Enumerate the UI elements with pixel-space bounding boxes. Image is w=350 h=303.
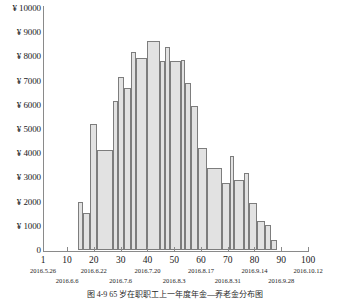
x-axis-tick-mark [308,247,309,252]
x-axis-date-label: 2016.7.20 [134,267,160,274]
x-axis-date-label: 2016.9.14 [241,267,267,274]
x-axis-tick-mark [43,247,44,252]
x-axis-date-label: 2016.5.26 [30,267,56,274]
x-axis-tick-mark [94,247,95,252]
x-axis-tick-mark [201,247,202,252]
x-axis-tick-label: 10 [62,255,72,265]
chart-figure: ¥ 10000¥ 9000¥ 8000¥ 7000¥ 6000¥ 5000¥ 4… [0,0,350,303]
x-axis-tick-label: 1 [41,255,46,265]
x-axis-tick-mark [281,247,282,252]
x-axis-date-label: 2016.7.6 [109,277,132,284]
x-axis-tick-label: 20 [89,255,99,265]
x-axis-tick-label: 40 [143,255,153,265]
x-axis-date-label: 2016.10.12 [293,267,322,274]
x-axis-tick-mark [254,247,255,252]
x-axis-date-label: 2016.8.31 [215,277,241,284]
x-axis-tick-mark [121,247,122,252]
x-axis-labels: 12016.5.26102016.6.6202016.6.22302016.7.… [0,0,350,303]
x-axis-tick-label: 100 [301,255,315,265]
x-axis-tick-label: 30 [116,255,126,265]
x-axis-tick-label: 90 [276,255,286,265]
x-axis-date-label: 2016.8.3 [163,277,186,284]
x-axis-tick-label: 80 [250,255,260,265]
x-axis-tick-label: 50 [169,255,179,265]
x-axis-date-label: 2016.8.17 [188,267,214,274]
x-axis-tick-mark [174,247,175,252]
x-axis-tick-label: 70 [223,255,233,265]
x-axis-date-label: 2016.6.22 [81,267,107,274]
x-axis-tick-mark [228,247,229,252]
figure-caption: 图 4-9 65 岁在职职工上一年度年金—养老金分布图 [0,290,350,299]
x-axis-date-label: 2016.6.6 [56,277,79,284]
x-axis-tick-label: 60 [196,255,206,265]
x-axis-date-label: 2016.9.28 [268,277,294,284]
x-axis-tick-mark [67,247,68,252]
x-axis-tick-mark [147,247,148,252]
